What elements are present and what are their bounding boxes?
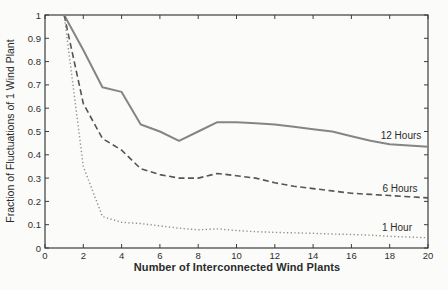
- series-line-1-hour: [64, 15, 428, 238]
- y-tick-label: 0.1: [28, 219, 41, 230]
- x-tick-label: 20: [423, 250, 434, 261]
- y-tick-label: 0.8: [28, 56, 41, 67]
- plot-box: [45, 15, 428, 248]
- series-label-6-hours: 6 Hours: [382, 183, 417, 194]
- x-axis-title: Number of Interconnected Wind Plants: [134, 261, 340, 273]
- x-tick-label: 4: [119, 250, 124, 261]
- series-label-12-hours: 12 Hours: [381, 130, 422, 141]
- y-tick-label: 0: [36, 243, 41, 254]
- x-tick-label: 10: [231, 250, 242, 261]
- x-tick-label: 6: [157, 250, 162, 261]
- y-tick-label: 0.7: [28, 79, 41, 90]
- x-tick-label: 0: [42, 250, 47, 261]
- series-line-6-hours: [64, 15, 428, 198]
- x-tick-label: 16: [346, 250, 357, 261]
- y-tick-label: 0.9: [28, 33, 41, 44]
- series-label-1-hour: 1 Hour: [382, 222, 412, 233]
- x-tick-label: 14: [308, 250, 319, 261]
- y-tick-label: 0.6: [28, 103, 41, 114]
- chart-canvas: 0246810121416182000.10.20.30.40.50.60.70…: [0, 0, 448, 290]
- x-tick-label: 18: [384, 250, 395, 261]
- x-tick-label: 2: [81, 250, 86, 261]
- y-tick-label: 0.3: [28, 173, 41, 184]
- y-axis-title: Fraction of Fluctuations of 1 Wind Plant: [4, 39, 16, 222]
- x-tick-label: 8: [196, 250, 201, 261]
- x-tick-label: 12: [270, 250, 281, 261]
- y-tick-label: 0.4: [28, 149, 41, 160]
- y-tick-label: 0.5: [28, 126, 41, 137]
- y-tick-label: 1: [36, 10, 41, 21]
- series-line-12-hours: [64, 15, 428, 147]
- y-tick-label: 0.2: [28, 196, 41, 207]
- wind-fluctuation-figure: 0246810121416182000.10.20.30.40.50.60.70…: [0, 0, 448, 290]
